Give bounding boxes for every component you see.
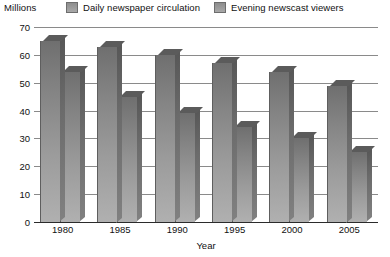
y-axis-unit-label: Millions xyxy=(4,2,36,13)
x-axis-labels: 198019851990199520002005 xyxy=(34,224,378,238)
bar-group-2005 xyxy=(321,27,378,222)
x-tick-label-1985: 1985 xyxy=(109,224,130,235)
bar-front-face xyxy=(155,55,175,222)
y-tick-label-10: 10 xyxy=(4,189,30,200)
bar-front-face xyxy=(97,47,117,223)
bar-2000-series-0 xyxy=(269,72,288,222)
bar-group-1995 xyxy=(206,27,263,222)
bar-group-2000 xyxy=(263,27,320,222)
legend-label-0: Daily newspaper circulation xyxy=(83,2,200,13)
bar-1980-series-0 xyxy=(40,41,59,222)
bar-front-face xyxy=(269,72,289,222)
y-tick-label-20: 20 xyxy=(4,161,30,172)
bar-front-face xyxy=(40,41,60,222)
legend-swatch-icon-0 xyxy=(66,2,78,13)
y-tick-label-30: 30 xyxy=(4,133,30,144)
legend-item-1: Evening newscast viewers xyxy=(214,2,344,13)
x-tick-label-1990: 1990 xyxy=(167,224,188,235)
bar-group-1990 xyxy=(149,27,206,222)
bar-group-1980 xyxy=(34,27,91,222)
y-axis-labels: 010203040506070 xyxy=(0,27,30,222)
bar-2005-series-0 xyxy=(327,86,346,223)
x-tick-label-2005: 2005 xyxy=(339,224,360,235)
legend-swatch-icon-1 xyxy=(214,2,226,13)
bar-front-face xyxy=(212,63,232,222)
x-axis-title: Year xyxy=(34,240,378,251)
x-tick-label-1995: 1995 xyxy=(224,224,245,235)
bar-1990-series-0 xyxy=(155,55,174,222)
bar-1985-series-0 xyxy=(97,47,116,223)
chart-container: Millions Daily newspaper circulationEven… xyxy=(0,0,390,257)
x-tick-label-1980: 1980 xyxy=(52,224,73,235)
bar-front-face xyxy=(327,86,347,223)
y-tick-label-60: 60 xyxy=(4,49,30,60)
y-tick-label-50: 50 xyxy=(4,77,30,88)
gridline-0 xyxy=(34,222,378,223)
legend-item-0: Daily newspaper circulation xyxy=(66,2,200,13)
y-tick-label-40: 40 xyxy=(4,105,30,116)
chart-legend: Daily newspaper circulationEvening newsc… xyxy=(66,2,344,13)
y-tick-label-0: 0 xyxy=(4,217,30,228)
bar-group-1985 xyxy=(91,27,148,222)
x-tick-label-2000: 2000 xyxy=(281,224,302,235)
bar-1995-series-0 xyxy=(212,63,231,222)
plot-area xyxy=(34,27,378,222)
legend-label-1: Evening newscast viewers xyxy=(231,2,344,13)
y-tick-label-70: 70 xyxy=(4,22,30,33)
